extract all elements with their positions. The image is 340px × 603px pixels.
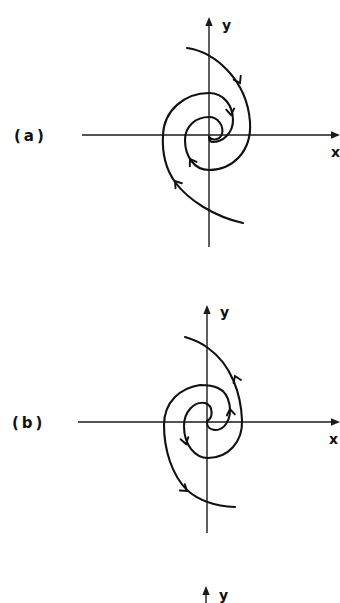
y-axis-arrowhead-icon: [205, 17, 212, 26]
y-axis-arrowhead-icon: [203, 305, 210, 314]
trajectory-a-lower: [163, 93, 243, 223]
panel-label-a: (a): [14, 127, 47, 145]
panel-a: (a) y x: [14, 17, 340, 247]
phase-portrait-figure: (a) y x (b) y x: [0, 0, 340, 603]
x-axis-arrowhead-icon: [331, 131, 340, 138]
y-axis-label-c: y: [219, 587, 228, 603]
panel-c-partial: y: [202, 586, 228, 603]
panel-label-b: (b): [12, 414, 45, 432]
trajectory-a-upper: [185, 48, 250, 170]
arrow-chevron-icon: [180, 484, 190, 494]
y-axis-label-a: y: [222, 17, 231, 33]
y-axis-arrowhead-icon: [202, 586, 209, 595]
y-axis-label-b: y: [220, 304, 229, 320]
panel-b: (b) y x: [12, 304, 340, 533]
x-axis-arrowhead-icon: [331, 418, 340, 425]
x-axis-label-a: x: [331, 144, 340, 160]
trajectory-b-upper: [184, 337, 242, 458]
x-axis-label-b: x: [329, 431, 338, 447]
